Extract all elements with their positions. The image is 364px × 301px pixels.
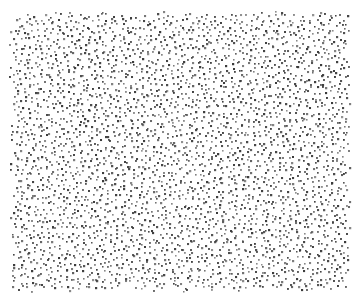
stipple-texture-image (0, 0, 364, 301)
dot-field-canvas (0, 0, 364, 301)
